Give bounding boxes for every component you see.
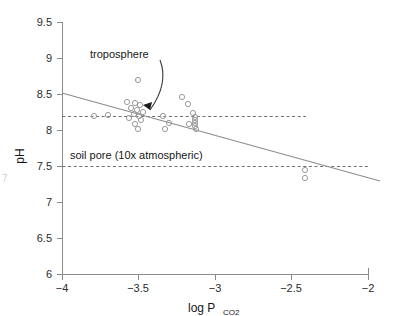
x-tick-label--2: −2: [362, 282, 375, 294]
scatter-chart: 9.5 9 8.5 8 7.5 7 6.5 6 −4 −3.5 −3 −2.5 …: [0, 0, 393, 316]
figure-container: 9.5 9 8.5 8 7.5 7 6.5 6 −4 −3.5 −3 −2.5 …: [0, 0, 393, 316]
x-tick-label--4: −4: [56, 282, 69, 294]
y-tick-label-8: 8: [46, 124, 52, 136]
y-tick-label-8.5: 8.5: [37, 88, 52, 100]
y-tick-label-9: 9: [46, 52, 52, 64]
x-tick-label--3.5: −3.5: [127, 282, 149, 294]
y-tick-label-6: 6: [46, 268, 52, 280]
edge-artifact-text: 7: [2, 173, 8, 184]
y-tick-label-6.5: 6.5: [37, 232, 52, 244]
y-tick-label-7: 7: [46, 196, 52, 208]
y-tick-label-7.5: 7.5: [37, 160, 52, 172]
y-tick-label-9.5: 9.5: [37, 16, 52, 28]
x-axis-title-subscript: CO2: [223, 308, 240, 316]
x-tick-label--3: −3: [209, 282, 222, 294]
y-axis-title: pH: [13, 148, 27, 163]
x-tick-label--2.5: −2.5: [280, 282, 302, 294]
x-axis-title-main: log P: [188, 301, 215, 315]
soil-pore-label: soil pore (10x atmospheric): [70, 149, 203, 161]
troposphere-label: troposphere: [90, 48, 149, 60]
